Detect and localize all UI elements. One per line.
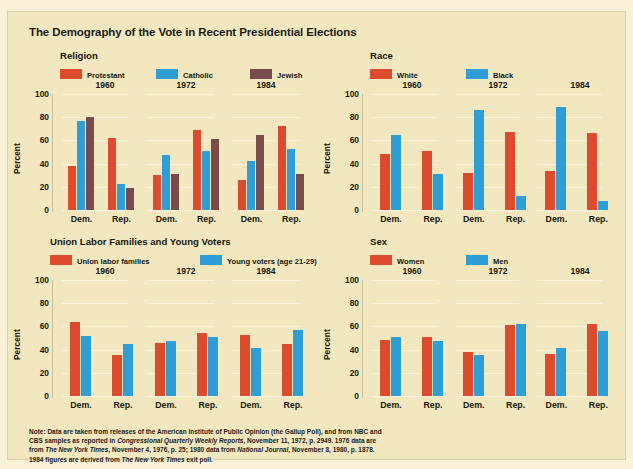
y-tick-80: 80 <box>333 298 359 308</box>
bar <box>202 151 210 210</box>
y-axis-line <box>52 94 53 212</box>
legend-item-catholic[interactable]: Catholic <box>156 64 213 76</box>
x-axis-label: Dem. <box>155 400 177 410</box>
y-tick-40: 40 <box>23 345 49 355</box>
bar <box>117 184 125 210</box>
bar <box>68 166 76 210</box>
legend-item-men[interactable]: Men <box>466 250 508 262</box>
y-tick-60: 60 <box>23 321 49 331</box>
panel-title-religion: Religion <box>60 50 98 61</box>
bar-group-1960-rep- <box>422 94 444 210</box>
y-tick-0: 0 <box>23 205 49 215</box>
y-tick-100: 100 <box>333 275 359 285</box>
x-axis-label: Rep. <box>113 400 132 410</box>
legend-item-union-labor-families[interactable]: Union labor families <box>50 250 150 262</box>
bar-group-1984-dem- <box>545 280 567 396</box>
footnote-line: from The New York Times, November 4, 197… <box>29 445 609 454</box>
footnote-line: Note: Data are taken from releases of th… <box>29 427 609 436</box>
y-tick-60: 60 <box>23 135 49 145</box>
bar <box>433 341 443 396</box>
bar-group-1960-rep- <box>112 280 134 396</box>
legend-swatch-icon <box>50 255 72 265</box>
gridline <box>147 210 214 211</box>
bar <box>126 188 134 210</box>
legend-label: Union labor families <box>77 257 150 266</box>
year-label-1972: 1972 <box>488 266 507 276</box>
bar-group-1960-dem- <box>70 280 92 396</box>
bar <box>108 138 116 210</box>
x-axis-label: Dem. <box>240 400 262 410</box>
legend-item-protestant[interactable]: Protestant <box>60 64 125 76</box>
year-labels-sex: 196019721984 <box>318 266 618 277</box>
bar <box>556 107 566 210</box>
bar-group-1984-rep- <box>282 280 304 396</box>
x-axis-label: Rep. <box>112 214 131 224</box>
legend-item-black[interactable]: Black <box>466 64 513 76</box>
year-label-1960: 1960 <box>402 80 421 90</box>
gridline <box>455 210 520 211</box>
panel-title-race: Race <box>370 50 393 61</box>
y-tick-20: 20 <box>23 182 49 192</box>
legend-item-jewish[interactable]: Jewish <box>250 64 302 76</box>
legend-item-women[interactable]: Women <box>370 250 424 262</box>
legend-swatch-icon <box>60 69 82 79</box>
year-labels-race: 196019721984 <box>318 80 618 91</box>
bar <box>474 355 484 396</box>
year-label-1984: 1984 <box>256 266 275 276</box>
bar <box>155 343 165 396</box>
bar-group-1984-dem- <box>240 280 262 396</box>
bar-group-1972-dem- <box>463 280 485 396</box>
x-axis-label: Rep. <box>589 400 608 410</box>
legend-label: Catholic <box>183 71 213 80</box>
bar-group-1972-dem- <box>153 94 180 210</box>
bar <box>166 341 176 396</box>
x-axis-label: Dem. <box>463 214 485 224</box>
bar-group-1984-dem- <box>545 94 567 210</box>
bar <box>77 121 85 210</box>
legend-label: Protestant <box>87 71 125 80</box>
x-axis-label: Rep. <box>423 400 442 410</box>
legend-item-white[interactable]: White <box>370 64 418 76</box>
y-tick-20: 20 <box>333 182 359 192</box>
bar <box>278 126 286 210</box>
plot-area-religion: 100806040200PercentDem.Rep.Dem.Rep.Dem.R… <box>56 94 311 210</box>
panel-religion: ReligionProtestantCatholicJewish19601972… <box>8 50 318 235</box>
x-axis-label: Rep. <box>282 214 301 224</box>
year-labels-religion: 196019721984 <box>8 80 318 91</box>
year-label-1972: 1972 <box>488 80 507 90</box>
bar <box>208 337 218 396</box>
plot-area-union-young: 100806040200PercentDem.Rep.Dem.Rep.Dem.R… <box>56 280 311 396</box>
bar <box>587 133 597 210</box>
bar <box>545 171 555 210</box>
bar <box>556 348 566 396</box>
legend-label: White <box>397 71 418 80</box>
y-axis-label: Percent <box>322 329 332 360</box>
x-axis-label: Rep. <box>423 214 442 224</box>
legend-item-young-voters-age-21-29[interactable]: Young voters (age 21-29) <box>200 250 317 262</box>
y-axis-label: Percent <box>12 143 22 174</box>
legend-label: Jewish <box>277 71 302 80</box>
bar-group-1972-rep- <box>197 280 219 396</box>
bar <box>282 344 292 396</box>
x-axis-label: Rep. <box>198 400 217 410</box>
x-axis-label: Dem. <box>546 400 568 410</box>
x-axis-label: Rep. <box>506 214 525 224</box>
bar <box>380 154 390 210</box>
bar-group-1972-dem- <box>155 280 177 396</box>
x-axis-label: Dem. <box>546 214 568 224</box>
bar <box>391 135 401 210</box>
panel-race: RaceWhiteBlack196019721984100806040200Pe… <box>318 50 618 235</box>
y-tick-80: 80 <box>333 112 359 122</box>
y-tick-60: 60 <box>333 321 359 331</box>
legend-swatch-icon <box>370 255 392 265</box>
y-tick-60: 60 <box>333 135 359 145</box>
gridline <box>372 210 437 211</box>
bar <box>598 201 608 210</box>
bar <box>86 117 94 210</box>
y-tick-20: 20 <box>23 368 49 378</box>
page-title: The Demography of the Vote in Recent Pre… <box>29 26 356 38</box>
bar-group-1960-dem- <box>380 280 402 396</box>
y-axis-line <box>52 280 53 398</box>
gridline <box>537 210 602 211</box>
panel-title-union-young: Union Labor Families and Young Voters <box>50 236 231 247</box>
